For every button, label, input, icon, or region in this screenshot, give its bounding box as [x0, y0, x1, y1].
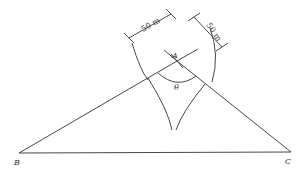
- dimension-tick-left-1: [124, 33, 134, 43]
- extension-ab: [177, 49, 198, 61]
- side-ac: [177, 61, 291, 152]
- side-ab: [19, 61, 177, 153]
- dimension-tick-right-1: [188, 13, 200, 21]
- vertex-label-c: C: [285, 157, 291, 166]
- dimension-label-left: 50 m: [140, 16, 162, 34]
- vertex-label-a: A: [171, 51, 178, 60]
- dimension-tick-right-2: [216, 43, 228, 51]
- arc-left-outer: [132, 43, 148, 80]
- arc-left-inner: [148, 78, 172, 130]
- dimension-tick-left-2: [166, 9, 176, 19]
- angle-arc: [158, 73, 196, 82]
- arc-right-inner: [176, 84, 205, 130]
- triangle-diagram: 50 m 50 m A B C θ: [0, 0, 297, 174]
- side-bc: [19, 152, 291, 153]
- dimension-label-right: 50 m: [204, 21, 223, 43]
- diagram-canvas: 50 m 50 m A B C θ: [0, 0, 297, 174]
- vertex-label-b: B: [13, 158, 20, 167]
- angle-label-theta: θ: [174, 83, 179, 92]
